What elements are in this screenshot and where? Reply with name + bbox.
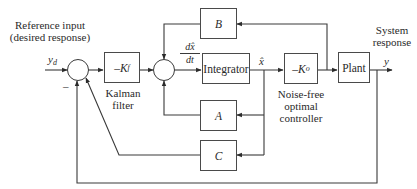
derivative-label: dx̂ dt — [180, 42, 200, 65]
kalman-filter-line2: filter — [100, 99, 146, 111]
controller-gain-subscript: o — [306, 64, 310, 73]
controller-line1: Noise-free — [271, 88, 331, 100]
system-response-label: System response — [368, 24, 416, 48]
integrator-block: Integrator — [202, 53, 250, 84]
controller-gain-block: –Ko — [284, 53, 318, 84]
summing-junction-1 — [67, 59, 89, 81]
controller-label: Noise-free optimal controller — [271, 88, 331, 124]
system-response-line2: response — [368, 36, 416, 48]
a-matrix-block: A — [200, 100, 237, 131]
system-response-line1: System — [368, 24, 416, 36]
c-matrix-block: C — [200, 140, 237, 171]
minus-sign: – — [63, 80, 69, 92]
yd-subscript: d — [53, 58, 57, 67]
kalman-filter-line1: Kalman — [100, 87, 146, 99]
reference-signal-yd: yd — [48, 53, 57, 69]
derivative-numerator: dx̂ — [180, 42, 200, 54]
block-diagram: Reference input (desired response) yd – … — [0, 0, 417, 189]
reference-input-line2: (desired response) — [0, 31, 100, 43]
derivative-denominator: dt — [180, 54, 200, 65]
summing-junction-2 — [153, 59, 175, 81]
reference-input-line1: Reference input — [0, 19, 100, 31]
plant-block: Plant — [338, 52, 370, 83]
state-estimate-label: x̂ — [259, 55, 264, 67]
reference-input-label: Reference input (desired response) — [0, 19, 100, 43]
controller-gain-symbol: –K — [292, 63, 305, 75]
kalman-gain-symbol: –K — [114, 62, 127, 74]
kalman-gain-subscript: f — [128, 63, 130, 72]
b-matrix-block: B — [200, 8, 237, 39]
kalman-gain-block: –Kf — [104, 52, 140, 83]
controller-line2: optimal — [271, 100, 331, 112]
kalman-filter-label: Kalman filter — [100, 87, 146, 111]
output-signal-y: y — [384, 55, 389, 67]
controller-line3: controller — [271, 112, 331, 124]
